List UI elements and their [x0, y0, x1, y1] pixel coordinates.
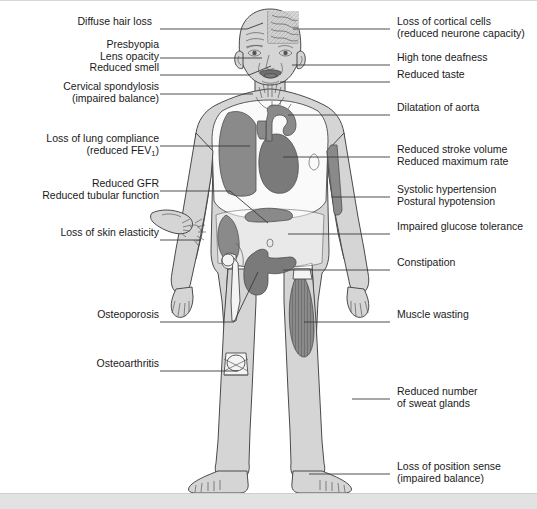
- label-dilatation-of-aorta: Dilatation of aorta: [397, 101, 479, 113]
- head: [235, 9, 306, 98]
- label-reduced-stroke-volume: Reduced stroke volumeReduced maximum rat…: [397, 143, 508, 168]
- label-high-tone-deafness: High tone deafness: [397, 51, 487, 63]
- label-systolic-hypertension: Systolic hypertensionPostural hypotensio…: [397, 183, 496, 208]
- label-presbyopia-lens-opacity: PresbyopiaLens opacity: [100, 38, 159, 63]
- label-diffuse-hair-loss: Diffuse hair loss: [77, 15, 152, 27]
- label-osteoporosis: Osteoporosis: [97, 308, 159, 320]
- brain-cortex-cutaway: [268, 11, 299, 43]
- mouth-tongue: [260, 70, 281, 78]
- label-reduced-sweat-glands: Reduced numberof sweat glands: [397, 385, 478, 410]
- label-muscle-wasting: Muscle wasting: [397, 308, 469, 320]
- label-cervical-spondylosis: Cervical spondylosis(impaired balance): [63, 80, 159, 105]
- label-constipation: Constipation: [397, 256, 455, 268]
- footer-bar: [0, 493, 537, 509]
- label-reduced-taste: Reduced taste: [397, 68, 465, 80]
- ear-right: [297, 51, 305, 69]
- label-reduced-gfr: Reduced GFRReduced tubular function: [42, 177, 159, 202]
- label-impaired-glucose-tolerance: Impaired glucose tolerance: [397, 220, 523, 232]
- knee-joint: [224, 353, 248, 375]
- age-changes-diagram: .bodyfill { fill:#d5d5d5; stroke:#4a4a4a…: [0, 0, 537, 509]
- label-loss-of-lung-compliance: Loss of lung compliance(reduced FEV1): [46, 132, 159, 159]
- lung: [219, 112, 256, 197]
- label-loss-of-position-sense: Loss of position sense(impaired balance): [397, 460, 501, 485]
- label-reduced-smell: Reduced smell: [90, 61, 159, 73]
- patella-right: [293, 269, 312, 279]
- label-loss-of-cortical-cells: Loss of cortical cells(reduced neurone c…: [397, 15, 525, 40]
- label-osteoarthritis: Osteoarthritis: [97, 357, 159, 369]
- label-loss-of-skin-elasticity: Loss of skin elasticity: [60, 226, 159, 238]
- ear-left: [235, 51, 243, 69]
